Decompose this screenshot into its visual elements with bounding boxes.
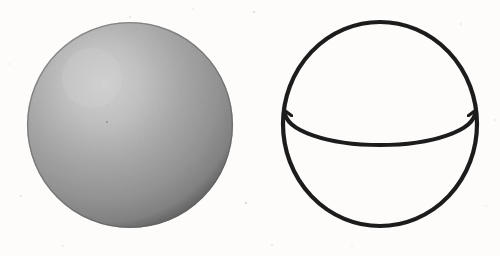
scan-speckle [129, 16, 131, 18]
scan-speckle [271, 244, 273, 246]
scan-speckle [460, 23, 462, 25]
scan-speckle [8, 63, 10, 65]
scan-speckle [494, 119, 496, 121]
scan-speckle [253, 11, 255, 13]
shaded-sphere-center-mark [106, 121, 108, 123]
scan-speckle [192, 8, 194, 10]
scan-speckle [351, 245, 353, 247]
scan-speckle [62, 245, 64, 247]
sphere-figure-svg [0, 0, 500, 256]
shaded-solid-sphere [27, 22, 233, 228]
scan-speckle [245, 202, 247, 204]
shaded-sphere-highlight [62, 48, 122, 108]
scan-speckle [20, 195, 22, 197]
figure-canvas [0, 0, 500, 256]
scan-speckle [485, 205, 487, 207]
